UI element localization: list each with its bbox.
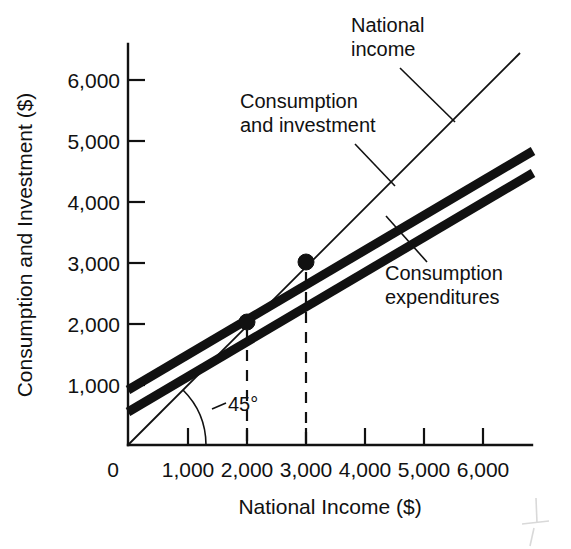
- chart-canvas: 6,000 5,000 4,000 3,000 2,000 1,000 0 1,…: [0, 0, 571, 549]
- x-tick-label-6000: 6,000: [457, 458, 510, 481]
- angle-arc-45deg: [183, 390, 206, 445]
- x-tick-label-2000: 2,000: [221, 458, 274, 481]
- scan-artifact-mark: [522, 498, 549, 546]
- angle-label-45deg: 45°: [228, 393, 258, 415]
- economics-keynesian-cross-figure: 6,000 5,000 4,000 3,000 2,000 1,000 0 1,…: [0, 0, 571, 549]
- x-tick-labels: 0 1,000 2,000 3,000 4,000 5,000 6,000: [107, 458, 509, 481]
- data-point-2000: [239, 314, 255, 330]
- x-tick-label-3000: 3,000: [280, 458, 333, 481]
- annotation-national-income-line1: National: [351, 14, 424, 36]
- annotation-consumption-and-investment: Consumption and investment: [240, 90, 395, 186]
- data-point-3000: [298, 254, 314, 270]
- y-tick-label-5000: 5,000: [67, 130, 120, 153]
- y-tick-label-3000: 3,000: [67, 252, 120, 275]
- annotation-consumption-expenditures-line1: Consumption: [385, 262, 503, 284]
- annotation-consumption-expenditures-line2: expenditures: [385, 286, 500, 308]
- x-axis-title: National Income ($): [238, 495, 421, 518]
- x-tick-label-4000: 4,000: [339, 458, 392, 481]
- y-tick-label-6000: 6,000: [67, 69, 120, 92]
- annotation-consumption-investment-line1: Consumption: [240, 90, 358, 112]
- annotation-national-income-line2: income: [351, 38, 415, 60]
- x-tick-label-0: 0: [107, 458, 119, 481]
- x-tick-label-1000: 1,000: [162, 458, 215, 481]
- x-tick-label-5000: 5,000: [398, 458, 451, 481]
- annotation-national-income: National income: [351, 14, 455, 122]
- annotation-national-income-leader: [400, 68, 455, 122]
- x-tick-marks: [188, 428, 483, 445]
- y-tick-label-2000: 2,000: [67, 313, 120, 336]
- annotation-consumption-investment-line2: and investment: [240, 114, 376, 136]
- annotation-consumption-investment-leader: [355, 144, 395, 186]
- angle-leader-line: [212, 403, 226, 409]
- y-axis-title: Consumption and Investment ($): [13, 93, 36, 398]
- y-tick-marks: [128, 80, 145, 385]
- y-tick-labels: 6,000 5,000 4,000 3,000 2,000 1,000: [67, 69, 120, 397]
- y-tick-label-1000: 1,000: [67, 374, 120, 397]
- y-tick-label-4000: 4,000: [67, 191, 120, 214]
